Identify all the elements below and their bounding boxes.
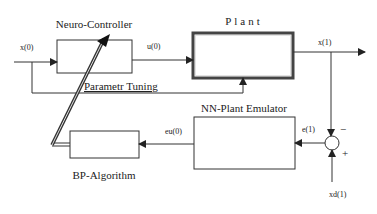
input-label: x(0) bbox=[20, 43, 34, 52]
error-label: e(1) bbox=[302, 125, 315, 134]
bp-algorithm-label: BP-Algorithm bbox=[73, 169, 136, 181]
control-label: u(0) bbox=[147, 42, 161, 51]
plant-label: Plant bbox=[225, 15, 263, 27]
control-block-diagram: Neuro-Controller Plant NN-Plant Emulator… bbox=[0, 0, 377, 214]
neuro-controller-label: Neuro-Controller bbox=[56, 18, 133, 30]
emulator-error-label: eu(0) bbox=[165, 127, 182, 136]
summing-junction: − + bbox=[325, 123, 348, 159]
nn-plant-emulator-label: NN-Plant Emulator bbox=[201, 102, 287, 114]
bp-algorithm-block: BP-Algorithm bbox=[70, 131, 139, 181]
minus-sign: − bbox=[340, 123, 346, 135]
plant-block: Plant bbox=[193, 15, 293, 78]
neuro-controller-block: Neuro-Controller bbox=[56, 18, 133, 73]
desired-label: xd(1) bbox=[329, 190, 347, 199]
error-signal: e(1) bbox=[295, 125, 325, 143]
plus-sign: + bbox=[342, 147, 348, 159]
emulator-error-signal: eu(0) bbox=[139, 127, 194, 144]
input-signal: x(0) bbox=[14, 43, 57, 62]
nn-plant-emulator-block: NN-Plant Emulator bbox=[194, 102, 295, 169]
parameter-tuning-label: Parametr Tuning bbox=[84, 80, 158, 92]
output-signal: x(1) bbox=[293, 38, 365, 136]
control-signal: u(0) bbox=[132, 42, 193, 60]
output-label: x(1) bbox=[318, 38, 332, 47]
